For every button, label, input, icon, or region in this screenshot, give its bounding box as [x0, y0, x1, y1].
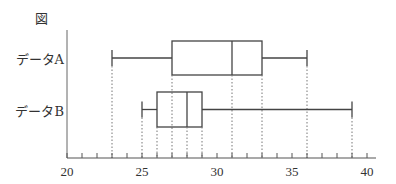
box [157, 92, 202, 127]
x-tick-label: 20 [61, 164, 74, 179]
x-tick-label: 40 [361, 164, 374, 179]
box [172, 41, 262, 75]
x-tick-label: 35 [286, 164, 299, 179]
boxplot-chart: 2025303540 [0, 0, 396, 184]
x-tick-label: 30 [211, 164, 224, 179]
x-tick-label: 25 [136, 164, 149, 179]
